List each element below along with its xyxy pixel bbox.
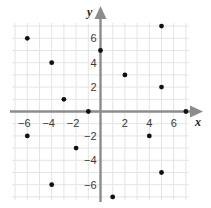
y-tick-label: −6: [84, 179, 97, 191]
y-tick-label: 6: [90, 32, 96, 44]
x-tick-label: −4: [42, 117, 55, 129]
data-point: [25, 134, 30, 139]
data-point: [98, 48, 103, 53]
data-point: [62, 97, 67, 102]
data-point: [25, 36, 30, 41]
data-point: [49, 60, 54, 65]
data-point: [110, 195, 115, 200]
data-point: [49, 182, 54, 187]
coordinate-plane: x y −6−4−2246642−2−4−6: [0, 0, 211, 208]
y-tick-label: 2: [90, 81, 96, 93]
data-point: [123, 73, 128, 78]
data-point: [159, 24, 164, 29]
data-point: [74, 146, 79, 151]
x-tick-label: 4: [146, 117, 152, 129]
y-tick-label: −4: [84, 154, 97, 166]
y-axis-arrow-icon: [95, 6, 107, 19]
y-tick-label: 4: [90, 57, 96, 69]
data-point: [86, 109, 91, 114]
x-tick-label: −2: [67, 117, 80, 129]
data-point: [147, 134, 152, 139]
data-point: [159, 170, 164, 175]
x-tick-label: 6: [171, 117, 177, 129]
data-point: [184, 109, 189, 114]
x-axis-title: x: [194, 115, 201, 129]
x-tick-label: 2: [122, 117, 128, 129]
y-axis-title: y: [85, 5, 93, 19]
y-tick-label: −2: [84, 130, 97, 142]
x-tick-label: −6: [18, 117, 31, 129]
data-point: [159, 85, 164, 90]
